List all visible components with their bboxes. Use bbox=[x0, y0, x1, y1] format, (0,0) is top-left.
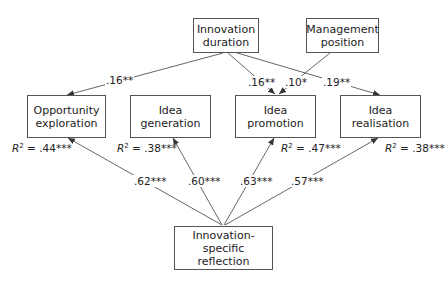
coef-reflection-to-generation: .60*** bbox=[187, 175, 221, 187]
r2-value: = .44*** bbox=[27, 142, 72, 154]
node-label: Opportunity bbox=[33, 104, 99, 117]
r2-exponent: 2 bbox=[392, 142, 396, 150]
node-opportunity-exploration: Opportunity exploration bbox=[27, 95, 106, 138]
r2-value: = .38*** bbox=[132, 142, 177, 154]
node-label: Idea realisation bbox=[341, 104, 420, 130]
r2-value: = .38*** bbox=[400, 142, 445, 154]
coef-duration-to-exploration: .16** bbox=[105, 74, 134, 86]
r2-idea-realisation: R2 = .38*** bbox=[385, 140, 445, 154]
coef-management-to-promotion: .10* bbox=[284, 76, 308, 88]
node-label: Idea generation bbox=[131, 104, 210, 130]
coef-reflection-to-exploration: .62*** bbox=[133, 175, 167, 187]
r2-opportunity-exploration: R2 = .44*** bbox=[12, 140, 72, 154]
node-idea-realisation: Idea realisation bbox=[340, 95, 421, 138]
r2-value: = .47*** bbox=[296, 142, 341, 154]
node-label: Innovation bbox=[197, 23, 255, 36]
node-label: position bbox=[306, 36, 378, 49]
r2-idea-promotion: R2 = .47*** bbox=[281, 140, 341, 154]
node-innovation-duration: Innovation duration bbox=[193, 18, 259, 53]
coef-duration-to-realisation: .19** bbox=[322, 76, 351, 88]
r2-exponent: 2 bbox=[288, 142, 292, 150]
r2-exponent: 2 bbox=[124, 142, 128, 150]
r2-exponent: 2 bbox=[19, 142, 23, 150]
node-label: duration bbox=[197, 36, 255, 49]
arrow-duration-to-realisation bbox=[234, 52, 380, 95]
node-label: exploration bbox=[33, 117, 99, 130]
node-label: reflection bbox=[175, 255, 272, 268]
node-idea-generation: Idea generation bbox=[130, 95, 211, 138]
coef-reflection-to-promotion: .63*** bbox=[239, 175, 273, 187]
node-label: Management bbox=[306, 23, 378, 36]
node-label: Innovation-specific bbox=[175, 229, 272, 255]
node-idea-promotion: Idea promotion bbox=[235, 95, 316, 138]
coef-reflection-to-realisation: .57*** bbox=[290, 175, 324, 187]
node-management-position: Management position bbox=[306, 18, 379, 53]
coef-duration-to-promotion: .16** bbox=[247, 76, 276, 88]
node-innovation-specific-reflection: Innovation-specific reflection bbox=[174, 226, 273, 270]
r2-idea-generation: R2 = .38*** bbox=[117, 140, 177, 154]
arrow-duration-to-exploration bbox=[67, 53, 223, 95]
node-label: Idea promotion bbox=[236, 104, 315, 130]
